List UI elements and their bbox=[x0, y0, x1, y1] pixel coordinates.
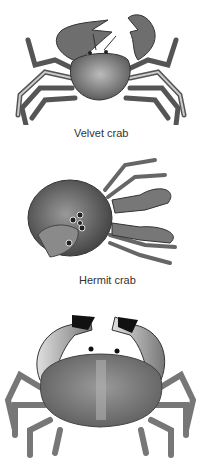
edible-crab-illustration bbox=[0, 305, 201, 462]
hermit-crab-label: Hermit crab bbox=[79, 274, 136, 286]
velvet-crab-illustration bbox=[0, 0, 201, 125]
velvet-crab-label: Velvet crab bbox=[74, 127, 128, 139]
hermit-crab-illustration bbox=[0, 155, 201, 275]
